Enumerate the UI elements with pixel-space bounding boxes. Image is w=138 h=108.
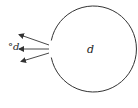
inner-label: d xyxy=(87,44,94,55)
arrow-upper xyxy=(19,35,49,46)
diagram-canvas xyxy=(0,0,138,108)
arrow-lower xyxy=(21,53,49,62)
outflow-label: °d xyxy=(8,42,19,52)
